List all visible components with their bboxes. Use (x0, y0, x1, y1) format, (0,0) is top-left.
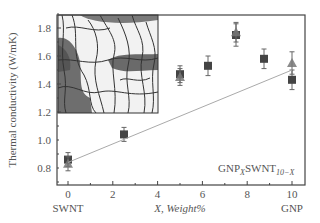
square-point (260, 49, 268, 69)
x-tick-label: 8 (244, 188, 250, 200)
y-tick-label: 1.8 (37, 22, 51, 34)
x-tick-label: 6 (200, 188, 206, 200)
annot-swnt: SWNT (245, 162, 276, 174)
chart: 02468100.81.01.21.41.61.8 Thermal conduc… (0, 0, 320, 223)
x-tick-label: 4 (155, 188, 161, 200)
annot-swnt-sub: 10−X (276, 168, 294, 177)
square-point (204, 56, 212, 76)
y-tick-label: 1.2 (37, 106, 51, 118)
y-tick-label: 1.6 (37, 50, 51, 62)
annot-gnp: GNP (218, 162, 240, 174)
y-axis-label: Thermal conductivity (W/mK) (6, 32, 19, 167)
y-tick-label: 1.4 (37, 78, 51, 90)
y-tick-label: 1.0 (37, 134, 51, 146)
y-tick-label: 0.8 (37, 162, 51, 174)
x-left-end-label: SWNT (52, 202, 83, 214)
x-tick-label: 2 (110, 188, 116, 200)
x-axis-label: X, Weight% (153, 202, 206, 214)
x-tick-label: 0 (65, 188, 71, 200)
inset-micrograph (58, 15, 158, 113)
x-tick-label: 10 (287, 188, 299, 200)
triangle-point (287, 52, 297, 74)
x-right-end-label: GNP (281, 202, 303, 214)
composition-annotation: GNPXSWNT10−X (218, 162, 294, 177)
